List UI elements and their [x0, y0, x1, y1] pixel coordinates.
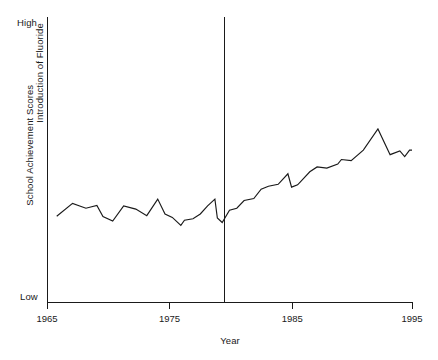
- fluoride-event-label: Introduction of Fluoride: [35, 23, 45, 153]
- chart-container: High Low School Achievement Scores Intro…: [0, 0, 438, 360]
- x-tick-label-1965: 1965: [27, 313, 67, 324]
- y-axis-low-label: Low: [20, 292, 38, 302]
- chart-plot-area: [0, 0, 438, 360]
- x-tick-label-1975: 1975: [150, 313, 190, 324]
- achievement-score-line: [57, 129, 412, 225]
- x-tick-label-1995: 1995: [392, 313, 432, 324]
- x-tick-label-1985: 1985: [272, 313, 312, 324]
- x-axis-title: Year: [180, 336, 280, 346]
